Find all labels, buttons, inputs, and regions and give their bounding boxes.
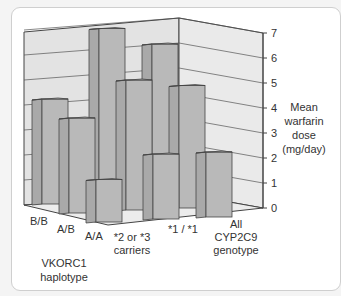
x-tick-label: All [230, 218, 242, 230]
x-tick-label: genotype [213, 244, 258, 256]
y-tick-label: 5 [271, 77, 277, 89]
depth-axis-label: VKORC1 [41, 257, 86, 269]
depth-axis-label: haplotype [40, 271, 88, 283]
y-axis-label: dose [292, 129, 316, 141]
bar-front [206, 152, 232, 217]
bar-side [86, 180, 96, 224]
x-tick-label: *1 / *1 [168, 223, 198, 235]
bar-side [196, 152, 206, 218]
y-tick-label: 0 [271, 202, 277, 214]
y-axis-label: Mean [290, 101, 318, 113]
bar-front [96, 180, 122, 223]
x-tick-label: carriers [114, 244, 151, 256]
y-tick-label: 6 [271, 52, 277, 64]
y-tick-label: 4 [271, 102, 277, 114]
bar-side [143, 154, 153, 220]
x-tick-label: *2 or *3 [114, 231, 151, 243]
y-tick-label: 7 [271, 27, 277, 39]
depth-tick-label: B/B [30, 215, 48, 227]
bar-side [32, 99, 42, 205]
y-axis-label: warfarin [283, 115, 323, 127]
bar-front [153, 154, 179, 219]
depth-tick-label: A/B [57, 223, 75, 235]
depth-tick-label: A/A [85, 230, 103, 242]
y-tick-label: 2 [271, 152, 277, 164]
x-tick-label: CYP2C9 [215, 231, 258, 243]
bar-side [59, 118, 69, 214]
y-tick-label: 3 [271, 127, 277, 139]
y-axis-label: (mg/day) [282, 143, 325, 155]
y-tick-label: 1 [271, 177, 277, 189]
